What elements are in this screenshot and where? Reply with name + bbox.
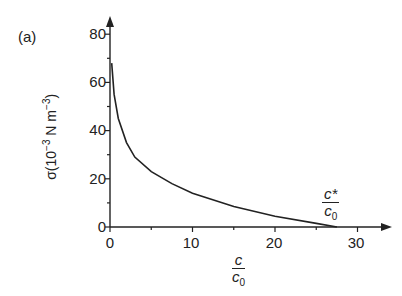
y-axis-arrow-icon xyxy=(106,16,114,27)
ytick-label: 0 xyxy=(76,218,106,235)
x-axis-label: c c0 xyxy=(232,252,245,291)
x-axis-arrow-icon xyxy=(381,223,392,231)
xtick-label: 0 xyxy=(95,234,125,251)
xtick-label: 30 xyxy=(341,234,371,251)
sigma-curve xyxy=(112,63,337,227)
ytick-label: 80 xyxy=(76,25,106,42)
ytick-label: 20 xyxy=(76,170,106,187)
ytick-label: 40 xyxy=(76,121,106,138)
xtick-label: 20 xyxy=(259,234,289,251)
critical-concentration-annotation: c* c0 xyxy=(322,186,339,225)
chart-plot xyxy=(0,0,402,296)
ytick-label: 60 xyxy=(76,73,106,90)
y-axis-label: σ(10−3 N m−3) xyxy=(41,67,59,207)
xtick-label: 10 xyxy=(176,234,206,251)
